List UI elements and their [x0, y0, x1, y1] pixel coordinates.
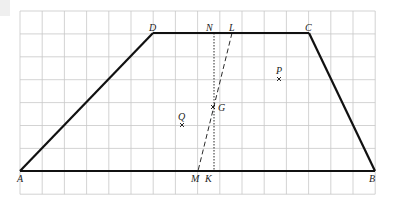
label-n: N	[205, 22, 214, 33]
label-c: C	[305, 22, 312, 33]
label-k: K	[204, 173, 213, 184]
label-b: B	[369, 173, 375, 184]
grid	[20, 11, 375, 194]
segment-bc	[309, 33, 375, 171]
label-p: P	[275, 65, 282, 76]
label-d: D	[148, 22, 157, 33]
trapezoid-diagram: A B C D N L M K G P Q	[0, 0, 394, 206]
point-marks	[180, 77, 281, 127]
label-m: M	[190, 173, 200, 184]
label-q: Q	[178, 111, 186, 122]
segment-lm	[198, 33, 232, 171]
label-g: G	[218, 102, 225, 113]
label-l: L	[228, 22, 235, 33]
label-a: A	[16, 173, 24, 184]
